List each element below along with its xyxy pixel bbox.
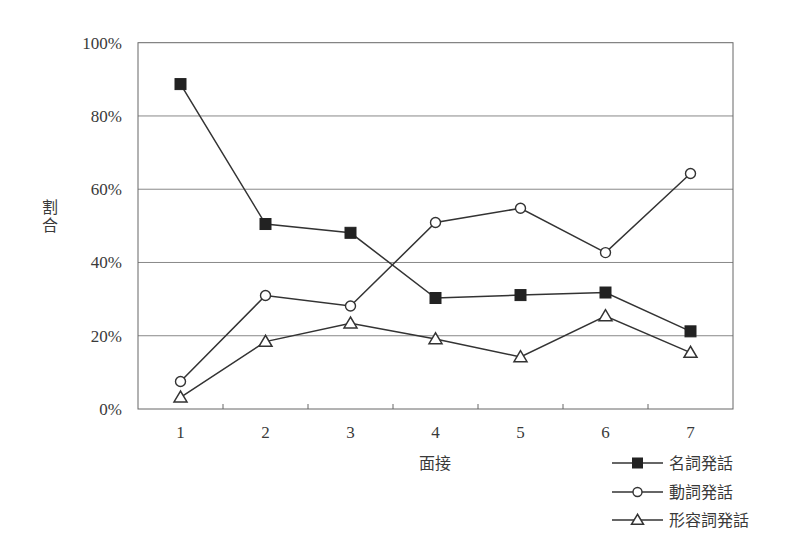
x-axis-title: 面接 — [419, 454, 451, 473]
legend-label: 名詞発話 — [669, 454, 733, 473]
square-marker-icon — [260, 219, 271, 230]
square-marker-icon — [600, 287, 611, 298]
x-tick-label: 5 — [516, 423, 525, 442]
circle-marker-icon — [516, 203, 526, 213]
x-tick-label: 1 — [176, 423, 185, 442]
y-axis-tick-labels: 0%20%40%60%80%100% — [82, 34, 122, 419]
y-axis-title-char: 割 — [42, 198, 58, 217]
legend: 名詞発話動詞発話形容詞発話 — [612, 454, 749, 530]
series-line — [181, 173, 691, 381]
circle-marker-icon — [431, 218, 441, 228]
square-marker-icon — [685, 326, 696, 337]
circle-marker-icon — [261, 290, 271, 300]
x-tick-label: 2 — [261, 423, 270, 442]
y-tick-label: 100% — [82, 34, 122, 53]
x-axis-ticks — [223, 404, 648, 409]
square-marker-icon — [515, 290, 526, 301]
circle-marker-icon — [686, 168, 696, 178]
line-chart: 0%20%40%60%80%100% 1234567 面接 割合 名詞発話動詞発… — [0, 0, 811, 560]
x-tick-label: 4 — [431, 423, 440, 442]
legend-label: 形容詞発話 — [669, 511, 749, 530]
square-marker-icon — [633, 458, 643, 468]
y-tick-label: 40% — [91, 253, 122, 272]
series-lines — [181, 84, 691, 397]
square-marker-icon — [175, 79, 186, 90]
y-tick-label: 80% — [91, 107, 122, 126]
x-tick-label: 7 — [686, 423, 695, 442]
y-tick-label: 20% — [91, 327, 122, 346]
legend-item: 動詞発話 — [612, 483, 733, 502]
series-line — [181, 316, 691, 397]
square-marker-icon — [345, 227, 356, 238]
circle-marker-icon — [633, 488, 642, 497]
circle-marker-icon — [346, 301, 356, 311]
x-axis-tick-labels: 1234567 — [176, 423, 695, 442]
y-axis-title-char: 合 — [42, 216, 58, 235]
circle-marker-icon — [176, 377, 186, 387]
legend-item: 名詞発話 — [612, 454, 733, 473]
legend-item: 形容詞発話 — [612, 511, 749, 530]
triangle-marker-icon — [684, 346, 697, 357]
y-tick-label: 0% — [99, 400, 122, 419]
y-axis-title: 割合 — [42, 198, 58, 235]
legend-label: 動詞発話 — [669, 483, 733, 502]
triangle-marker-icon — [174, 391, 187, 402]
triangle-marker-icon — [599, 310, 612, 321]
x-tick-label: 6 — [601, 423, 610, 442]
circle-marker-icon — [601, 248, 611, 258]
square-marker-icon — [430, 293, 441, 304]
y-tick-label: 60% — [91, 180, 122, 199]
triangle-marker-icon — [344, 317, 357, 328]
x-tick-label: 3 — [346, 423, 355, 442]
